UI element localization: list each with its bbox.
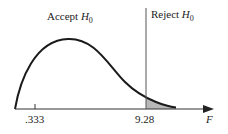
x-axis-arrow-icon <box>203 105 214 113</box>
tick-label-333: .333 <box>25 113 44 125</box>
density-curve <box>15 39 176 109</box>
reject-label: Reject H0 <box>151 8 194 23</box>
axis-label-f: F <box>206 113 213 125</box>
tick-label-928: 9.28 <box>135 113 154 125</box>
accept-label: Accept H0 <box>47 10 93 25</box>
